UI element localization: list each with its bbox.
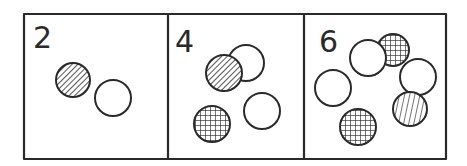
count-label: 6 — [319, 24, 338, 59]
panels: 246 — [33, 20, 436, 145]
circle-open — [244, 93, 280, 129]
circle-open — [315, 70, 351, 106]
panel-2: 2 — [33, 20, 131, 116]
circle-crosshatch — [340, 109, 376, 145]
circle-open — [400, 59, 436, 95]
counting-diagram: 246 — [0, 0, 467, 166]
circle-crosshatch — [194, 106, 230, 142]
circle-diagonal — [206, 55, 242, 91]
circle-open — [95, 80, 131, 116]
count-label: 4 — [175, 24, 194, 59]
panel-4: 4 — [175, 24, 280, 142]
diagram-canvas: 246 — [0, 0, 467, 166]
circle-open — [350, 40, 386, 76]
panel-6: 6 — [315, 24, 436, 145]
circle-diagonal — [56, 63, 90, 97]
circle-vertical — [393, 92, 427, 126]
count-label: 2 — [33, 20, 52, 55]
